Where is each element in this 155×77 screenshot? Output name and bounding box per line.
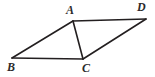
segment-BC (12, 58, 83, 59)
segment-AB (12, 21, 73, 58)
vertex-label-b: B (7, 61, 15, 73)
geometry-figure: A D B C (0, 0, 155, 77)
segment-AD (73, 19, 146, 21)
segment-CD (83, 19, 146, 59)
segment-AC (73, 21, 83, 59)
vertex-label-d: D (137, 1, 146, 13)
vertex-label-a: A (66, 4, 74, 16)
geometry-canvas (0, 0, 155, 77)
vertex-label-c: C (82, 62, 90, 74)
